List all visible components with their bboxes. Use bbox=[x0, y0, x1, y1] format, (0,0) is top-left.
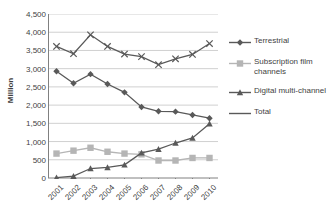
y-axis-tick-label: 4,000 bbox=[2, 28, 46, 37]
triangle-marker-icon bbox=[229, 87, 251, 98]
diamond-marker-icon bbox=[172, 108, 178, 114]
legend-item[interactable]: Subscription film channels bbox=[229, 57, 335, 77]
legend-item[interactable]: Total bbox=[229, 107, 335, 119]
diamond-marker-icon bbox=[237, 39, 243, 45]
series-subscription-film-channels bbox=[53, 145, 212, 164]
x-marker-icon bbox=[155, 61, 161, 67]
diamond-marker-icon bbox=[206, 115, 212, 121]
line-chart: Million 05001,0001,5002,0002,5003,0003,5… bbox=[0, 0, 335, 220]
series-terrestrial bbox=[53, 68, 212, 121]
square-marker-icon bbox=[172, 157, 178, 163]
square-marker-icon bbox=[189, 155, 195, 161]
chart-legend: TerrestrialSubscription film channelsDig… bbox=[229, 36, 335, 128]
y-axis-tick-label: 3,000 bbox=[2, 64, 46, 73]
x-marker-icon bbox=[53, 43, 59, 49]
legend-item-label: Total bbox=[254, 107, 271, 117]
line-marker-icon bbox=[229, 108, 251, 119]
y-axis-tick-label: 3,500 bbox=[2, 46, 46, 55]
plot-area bbox=[48, 14, 218, 178]
y-axis-tick-label: 4,500 bbox=[2, 10, 46, 19]
square-marker-icon bbox=[206, 155, 212, 161]
diamond-marker-icon bbox=[155, 108, 161, 114]
y-axis-tick-label: 2,500 bbox=[2, 82, 46, 91]
series-line bbox=[57, 35, 210, 65]
square-marker-icon bbox=[229, 58, 251, 69]
legend-item-label: Subscription film channels bbox=[254, 57, 335, 77]
y-axis-tick-label: 1,500 bbox=[2, 119, 46, 128]
y-axis-tick-label: 1,000 bbox=[2, 137, 46, 146]
series-total bbox=[53, 32, 212, 68]
x-marker-icon bbox=[70, 51, 76, 57]
square-marker-icon bbox=[104, 149, 110, 155]
legend-item-label: Terrestrial bbox=[254, 36, 289, 46]
legend-item-label: Digital multi-channel bbox=[254, 86, 326, 96]
diamond-marker-icon bbox=[189, 112, 195, 118]
diamond-marker-icon bbox=[87, 71, 93, 77]
square-marker-icon bbox=[87, 145, 93, 151]
legend-item[interactable]: Terrestrial bbox=[229, 36, 335, 48]
y-axis-tick-label: 500 bbox=[2, 155, 46, 164]
x-marker-icon bbox=[206, 40, 212, 46]
y-axis-tick-labels: 05001,0001,5002,0002,5003,0003,5004,0004… bbox=[0, 0, 46, 190]
square-marker-icon bbox=[155, 157, 161, 163]
x-axis-tick-labels: 2001200220032004200520062007200820092010 bbox=[48, 180, 228, 220]
x-marker-icon bbox=[104, 43, 110, 49]
series-line bbox=[57, 71, 210, 118]
square-marker-icon bbox=[53, 150, 59, 156]
series-line bbox=[57, 124, 210, 178]
y-axis-tick-label: 0 bbox=[2, 174, 46, 183]
square-marker-icon bbox=[237, 60, 243, 66]
diamond-marker-icon bbox=[229, 37, 251, 48]
diamond-marker-icon bbox=[104, 81, 110, 87]
square-marker-icon bbox=[70, 147, 76, 153]
y-axis-tick-label: 2,000 bbox=[2, 101, 46, 110]
plot-svg bbox=[48, 14, 218, 179]
square-marker-icon bbox=[121, 150, 127, 156]
legend-item[interactable]: Digital multi-channel bbox=[229, 86, 335, 98]
